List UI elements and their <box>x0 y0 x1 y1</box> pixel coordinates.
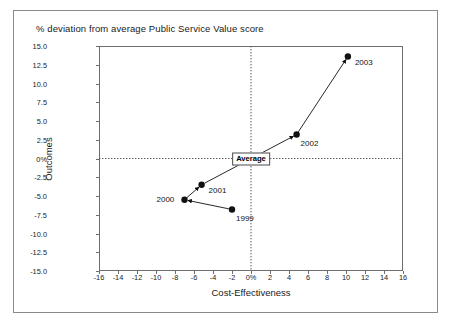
data-point-marker <box>181 197 187 203</box>
series-layer <box>14 11 439 314</box>
data-point-label: 1999 <box>236 214 254 223</box>
data-point-label: 2000 <box>157 195 175 204</box>
series-connector <box>298 59 346 131</box>
plot-wrapper: Outcomes Cost-Effectiveness 15.012.510.0… <box>14 11 439 314</box>
data-point-marker <box>229 206 235 212</box>
series-data-points <box>181 53 351 212</box>
data-point-label: 2003 <box>355 58 373 67</box>
data-point-label: 2001 <box>209 186 227 195</box>
data-point-marker <box>345 53 351 59</box>
data-point-label: 2002 <box>301 139 319 148</box>
data-point-marker <box>293 131 299 137</box>
series-connector <box>188 200 229 208</box>
average-badge: Average <box>232 152 270 165</box>
series-connector <box>187 187 199 198</box>
chart-figure-frame: % deviation from average Public Service … <box>13 10 438 313</box>
data-point-marker <box>198 182 204 188</box>
